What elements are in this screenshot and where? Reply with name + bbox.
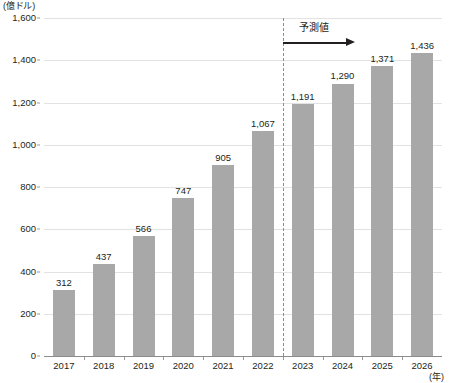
y-axis-tick-mark (37, 144, 40, 145)
bar-value-label: 1,191 (277, 91, 329, 102)
y-axis-tick-mark (37, 356, 40, 357)
forecast-arrow-head (346, 38, 355, 46)
y-axis-tick-mark (37, 271, 40, 272)
bar[interactable] (371, 66, 393, 356)
forecast-arrow-icon (283, 38, 355, 47)
bar[interactable] (172, 198, 194, 356)
y-axis-tick-mark (37, 60, 40, 61)
bar-value-label: 905 (197, 152, 249, 163)
y-axis-ticks: 02004006008001,0001,2001,4001,600 (0, 18, 40, 356)
y-axis-unit-label: (億ドル) (3, 1, 35, 12)
y-axis-tick-label: 800 (20, 182, 36, 192)
bar[interactable] (292, 104, 314, 356)
y-axis-tick-label: 1,000 (12, 140, 36, 150)
forecast-label: 予測値 (299, 22, 329, 34)
y-axis-tick-label: 0 (31, 351, 36, 361)
y-axis-tick-mark (37, 187, 40, 188)
y-axis-tick-label: 600 (20, 224, 36, 234)
bar[interactable] (332, 84, 354, 357)
bar-value-label: 747 (157, 185, 209, 196)
forecast-divider (283, 18, 284, 356)
bar-value-label: 437 (78, 251, 130, 262)
bar-value-label: 1,436 (396, 40, 448, 51)
plot-area: 3124375667479051,0671,1911,2901,3711,436 (44, 18, 442, 356)
y-axis-tick-label: 400 (20, 267, 36, 277)
bar-value-label: 1,371 (356, 53, 408, 64)
x-axis-ticks: (年) 201720182019202020212022202320242025… (44, 357, 442, 383)
y-axis-tick-mark (37, 102, 40, 103)
y-axis-tick-label: 1,400 (12, 55, 36, 65)
bar[interactable] (252, 131, 274, 356)
y-axis-tick-mark (37, 229, 40, 230)
y-axis-tick-label: 200 (20, 309, 36, 319)
y-axis-tick-mark (37, 313, 40, 314)
y-axis-tick-label: 1,200 (12, 98, 36, 108)
bar-value-label: 1,290 (317, 70, 369, 81)
bar-chart: (億ドル) 02004006008001,0001,2001,4001,600 … (0, 0, 451, 383)
bar[interactable] (93, 264, 115, 356)
bar[interactable] (133, 236, 155, 356)
bar[interactable] (411, 53, 433, 356)
bar-value-label: 566 (118, 223, 170, 234)
y-axis-tick-mark (37, 18, 40, 19)
bar-value-label: 312 (38, 277, 90, 288)
y-axis-tick-label: 1,600 (12, 13, 36, 23)
bar-value-label: 1,067 (237, 118, 289, 129)
x-axis-unit-label: (年) (429, 372, 444, 382)
forecast-arrow-shaft (283, 42, 347, 44)
gridline (44, 18, 442, 19)
bar[interactable] (212, 165, 234, 356)
x-axis-tick-label: 2026 (396, 360, 448, 371)
bar[interactable] (53, 290, 75, 356)
